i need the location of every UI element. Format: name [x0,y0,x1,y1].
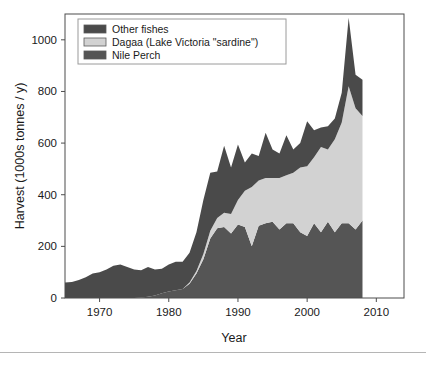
y-tick-label-200: 200 [38,240,57,252]
y-tick-label-0: 0 [51,292,57,304]
y-tick-label-1000: 1000 [31,34,57,46]
chart-legend: Other fishesDagaa (Lake Victoria "sardin… [78,19,286,64]
y-tick-label-600: 600 [38,137,57,149]
y-tick-label-800: 800 [38,85,57,97]
legend-swatch-other-fishes [84,25,106,33]
legend-label-nile-perch: Nile Perch [112,49,161,61]
x-tick-label-1970: 1970 [87,306,113,318]
legend-label-dagaa: Dagaa (Lake Victoria "sardine") [112,36,258,48]
harvest-stacked-area-chart: 0200400600800100019701980199020002010 Ot… [0,0,426,366]
x-tick-label-1990: 1990 [225,306,251,318]
legend-swatch-nile-perch [84,51,106,59]
y-axis-title: Harvest (1000s tonnes / y) [13,83,27,230]
legend-swatch-dagaa [84,38,106,46]
y-tick-label-400: 400 [38,189,57,201]
x-axis-title: Year [221,331,246,345]
legend-label-other-fishes: Other fishes [112,23,169,35]
x-tick-label-2000: 2000 [294,306,320,318]
x-tick-label-1980: 1980 [156,306,182,318]
x-tick-label-2010: 2010 [364,306,390,318]
